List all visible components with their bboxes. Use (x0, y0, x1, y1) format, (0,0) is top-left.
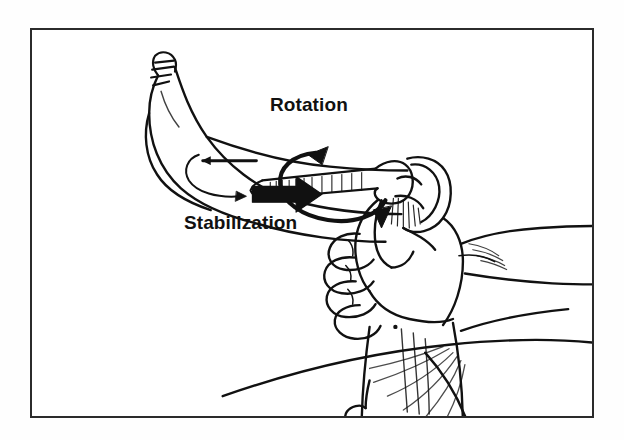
groin-crease-shading (370, 347, 465, 416)
stabilization-label: Stabilization (184, 212, 297, 234)
figure-border-frame: Rotation Stabilization (30, 28, 594, 418)
figure-root: Rotation Stabilization (0, 0, 624, 440)
knee-joint (375, 157, 451, 232)
traction-arrow (186, 155, 256, 202)
thigh-detail-dot (393, 325, 397, 329)
anatomical-line-art (32, 30, 592, 416)
forearm-shading (469, 244, 507, 270)
examiner-fingers (324, 234, 380, 339)
rotation-label: Rotation (270, 94, 348, 116)
toe-tendon-shading (161, 91, 179, 127)
patient-trunk (223, 309, 592, 416)
examiner-forearm (459, 226, 592, 284)
